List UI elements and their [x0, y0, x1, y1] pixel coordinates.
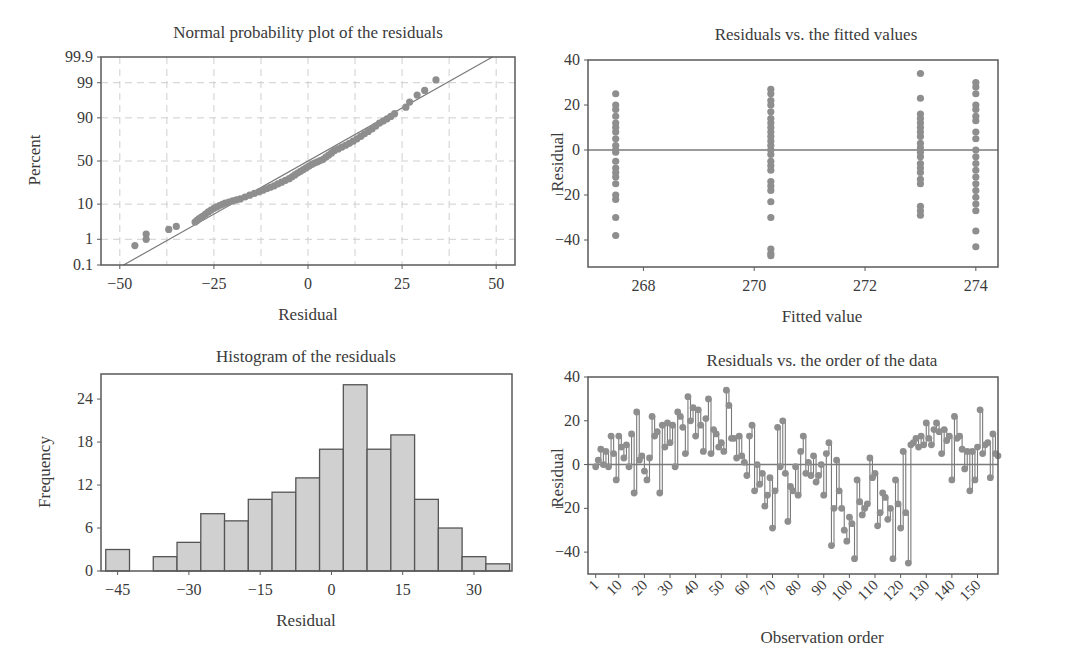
axis-ticks: 40200−20−4011020304050607080901001101201… [555, 368, 984, 604]
data-point [972, 146, 979, 153]
data-point [972, 160, 979, 167]
data-point [769, 525, 776, 532]
tick-label: 40 [564, 368, 580, 385]
x-axis-label: Residual [278, 305, 338, 324]
histogram-bars [106, 385, 510, 571]
data-point [421, 87, 428, 94]
data-point [692, 433, 699, 440]
data-point [414, 91, 421, 98]
tick-label: 100 [828, 577, 855, 604]
tick-label: −20 [555, 186, 580, 203]
data-point [972, 194, 979, 201]
histogram-bar [343, 385, 367, 571]
data-point [897, 525, 904, 532]
tick-label: 0 [85, 562, 93, 579]
data-point [856, 498, 863, 505]
residuals-vs-order-panel: Residuals vs. the order of the data Obse… [530, 330, 1068, 668]
tick-label: 274 [964, 277, 988, 294]
data-point [646, 455, 653, 462]
data-point [836, 487, 843, 494]
data-point [656, 490, 663, 497]
tick-label: 268 [631, 277, 655, 294]
residuals-vs-fitted-plot: Residuals vs. the fitted values Fitted v… [530, 0, 1068, 330]
data-point [797, 448, 804, 455]
data-point [741, 459, 748, 466]
tick-label: 0.1 [73, 256, 93, 273]
data-point [777, 463, 784, 470]
tick-label: −45 [105, 581, 130, 598]
data-point [849, 520, 856, 527]
chart-title: Residuals vs. the fitted values [715, 25, 918, 44]
data-point [736, 433, 743, 440]
data-point [372, 123, 379, 130]
histogram-panel: Histogram of the residuals Residual Freq… [0, 330, 530, 630]
data-point [825, 439, 832, 446]
data-point [700, 448, 707, 455]
data-point [644, 476, 651, 483]
tick-label: 110 [854, 577, 881, 604]
data-points [612, 70, 979, 259]
data-point [626, 463, 633, 470]
data-point [859, 512, 866, 519]
data-point [917, 70, 924, 77]
tick-label: 0 [304, 275, 312, 292]
data-point [972, 187, 979, 194]
tick-label: 20 [629, 577, 651, 599]
data-point [941, 426, 948, 433]
tick-label: 0 [327, 581, 335, 598]
histogram-bar [225, 521, 249, 571]
tick-label: 30 [466, 581, 482, 598]
tick-label: 10 [603, 577, 625, 599]
data-point [851, 555, 858, 562]
data-point [654, 428, 661, 435]
data-point [173, 223, 180, 230]
data-point [767, 474, 774, 481]
normal-probability-plot: Normal probability plot of the residuals… [0, 0, 530, 330]
data-point [972, 207, 979, 214]
data-point [749, 422, 756, 429]
data-point [810, 452, 817, 459]
y-axis-label: Residual [548, 132, 567, 192]
data-point [917, 180, 924, 187]
tick-label: 90 [808, 577, 830, 599]
data-point [820, 492, 827, 499]
tick-label: −40 [555, 543, 580, 560]
tick-label: 99.9 [65, 48, 93, 65]
data-point [743, 472, 750, 479]
histogram-bar [177, 542, 201, 571]
data-point [282, 177, 289, 184]
data-point [972, 243, 979, 250]
data-point [866, 455, 873, 462]
data-point [784, 518, 791, 525]
tick-label: −30 [176, 581, 201, 598]
data-point [767, 108, 774, 115]
data-point [219, 201, 226, 208]
tick-label: 40 [564, 51, 580, 68]
data-point [933, 420, 940, 427]
data-point [972, 128, 979, 135]
data-point [782, 470, 789, 477]
data-point [902, 509, 909, 516]
data-point [979, 450, 986, 457]
data-point [667, 439, 674, 446]
residuals-vs-fitted-panel: Residuals vs. the fitted values Fitted v… [530, 0, 1068, 330]
data-point [833, 457, 840, 464]
data-point [966, 487, 973, 494]
data-point [672, 463, 679, 470]
data-point [697, 422, 704, 429]
tick-label: 50 [488, 275, 504, 292]
data-point [828, 542, 835, 549]
data-point [917, 133, 924, 140]
tick-label: 20 [564, 96, 580, 113]
histogram-bar [106, 550, 130, 571]
data-point [612, 173, 619, 180]
x-axis-label: Residual [276, 611, 336, 630]
data-point [972, 180, 979, 187]
tick-label: 150 [956, 577, 983, 604]
data-point [972, 227, 979, 234]
tick-label: 0 [572, 456, 580, 473]
plot-frame [588, 60, 998, 267]
data-point [938, 450, 945, 457]
y-axis-label: Percent [25, 134, 44, 185]
data-point [895, 501, 902, 508]
